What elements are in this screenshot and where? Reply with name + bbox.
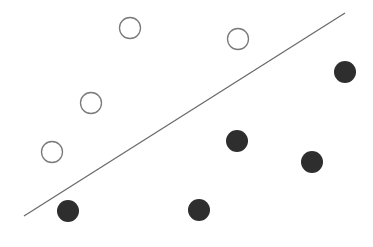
filled-point — [57, 200, 79, 222]
open-point — [228, 29, 249, 50]
filled-point — [188, 199, 210, 221]
decision-boundary-line — [24, 13, 345, 216]
open-point — [42, 142, 63, 163]
filled-point — [334, 61, 356, 83]
open-point — [120, 18, 141, 39]
classification-diagram — [0, 0, 373, 247]
open-point — [81, 93, 102, 114]
filled-point — [226, 130, 248, 152]
filled-point — [301, 151, 323, 173]
